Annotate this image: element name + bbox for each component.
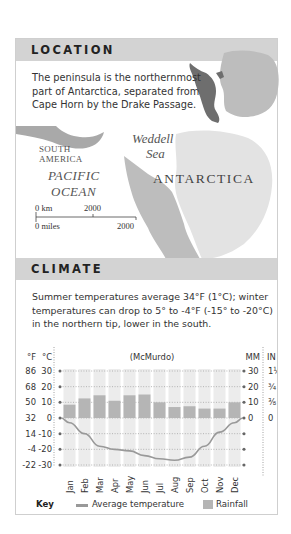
chart-title: (McMurdo) xyxy=(130,352,175,362)
inch-tick-label: 1¼ xyxy=(268,366,277,376)
rainfall-bar xyxy=(214,409,226,418)
inch-axis-label: IN xyxy=(267,352,276,362)
location-description: The peninsula is the northernmost part o… xyxy=(32,71,202,112)
left-tick-dot xyxy=(59,401,62,404)
chart-key: Key Average temperature Rainfall xyxy=(16,499,277,513)
region-map: Weddell Sea SOUTH AMERICA PACIFIC OCEAN … xyxy=(16,126,277,259)
antarctica-continent-shape xyxy=(220,51,279,118)
fahrenheit-tick-label: 86 xyxy=(25,366,36,376)
month-label: Feb xyxy=(80,478,90,493)
rainfall-bar xyxy=(79,398,91,418)
fahrenheit-tick-label: 68 xyxy=(25,382,36,392)
left-tick-dot xyxy=(59,448,62,451)
rainfall-bar xyxy=(94,395,106,418)
climate-description: Summer temperatures average 34°F (1°C); … xyxy=(32,290,277,331)
right-tick-dot xyxy=(243,385,246,388)
left-tick-dot xyxy=(59,385,62,388)
inch-tick-label: ⅜ xyxy=(268,397,276,407)
celsius-tick-label: -20 xyxy=(38,444,52,454)
rainfall-bar xyxy=(229,402,241,418)
rainfall-bar xyxy=(199,409,211,418)
celsius-tick-label: -10 xyxy=(38,429,52,439)
scale-km-start: 0 km xyxy=(35,203,52,213)
rainfall-legend-label: Rainfall xyxy=(216,499,248,509)
celsius-tick-label: 20 xyxy=(41,382,52,392)
rainfall-legend-swatch xyxy=(203,500,213,509)
celsius-tick-label: 10 xyxy=(41,397,52,407)
mm-tick-label: 0 xyxy=(248,413,253,423)
climate-header: CLIMATE xyxy=(16,258,277,280)
rainfall-bar xyxy=(124,395,136,418)
rainfall-bar xyxy=(169,407,181,418)
climate-chart: 308620681050032-1014-20-4-30-22°F°C301¼2… xyxy=(16,341,277,516)
month-label: Jul xyxy=(155,483,165,494)
right-tick-dot xyxy=(243,370,246,373)
temperature-legend-label: Average temperature xyxy=(92,499,184,509)
right-tick-dot xyxy=(243,464,246,467)
right-tick-dot xyxy=(243,448,246,451)
key-title: Key xyxy=(36,499,54,509)
mm-tick-label: 30 xyxy=(248,366,259,376)
rainfall-bar xyxy=(184,406,196,418)
scale-miles-start: 0 miles xyxy=(35,221,60,231)
scale-bar xyxy=(16,126,277,259)
month-label: Dec xyxy=(230,476,240,493)
fahrenheit-tick-label: 14 xyxy=(25,429,36,439)
celsius-tick-label: 0 xyxy=(47,413,52,423)
fahrenheit-tick-label: -22 xyxy=(22,460,36,470)
temperature-legend-swatch xyxy=(76,504,88,507)
left-tick-dot xyxy=(59,464,62,467)
fahrenheit-tick-label: 50 xyxy=(25,397,36,407)
celsius-tick-label: 30 xyxy=(41,366,52,376)
fahrenheit-tick-label: -4 xyxy=(28,444,36,454)
location-heading: LOCATION xyxy=(31,43,115,57)
month-label: Jan xyxy=(65,480,75,494)
month-label: May xyxy=(125,476,135,493)
scale-km-end: 2000 xyxy=(84,203,101,213)
right-tick-dot xyxy=(243,432,246,435)
scale-miles-end: 2000 xyxy=(117,221,134,231)
rainfall-bar xyxy=(154,402,166,418)
climate-heading: CLIMATE xyxy=(31,262,103,276)
inch-tick-label: ¾ xyxy=(268,382,276,392)
month-label: Oct xyxy=(200,478,210,493)
rainfall-bar xyxy=(109,401,121,418)
month-label: Mar xyxy=(95,477,105,493)
fahrenheit-axis-label: °F xyxy=(27,352,36,362)
month-label: Nov xyxy=(215,477,225,493)
rainfall-bar xyxy=(64,405,76,418)
climate-chart-svg: 308620681050032-1014-20-4-30-22°F°C301¼2… xyxy=(16,341,277,501)
month-label: Aug xyxy=(170,477,180,493)
rainfall-bar xyxy=(139,395,151,419)
month-label: Apr xyxy=(110,478,120,493)
mm-axis-label: MM xyxy=(246,352,260,362)
inch-tick-label: 0 xyxy=(268,413,273,423)
left-tick-dot xyxy=(59,432,62,435)
left-tick-dot xyxy=(59,370,62,373)
mm-tick-label: 20 xyxy=(248,382,259,392)
right-tick-dot xyxy=(243,401,246,404)
month-label: Jun xyxy=(140,480,150,494)
info-panel: LOCATION The peninsula is the northernmo… xyxy=(15,38,278,515)
fahrenheit-tick-label: 32 xyxy=(25,413,36,423)
month-label: Sep xyxy=(185,477,195,493)
celsius-tick-label: -30 xyxy=(38,460,52,470)
mm-tick-label: 10 xyxy=(248,397,259,407)
celsius-axis-label: °C xyxy=(42,352,52,362)
